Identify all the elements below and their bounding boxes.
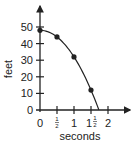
data-point	[37, 28, 42, 33]
y-axis-title: feet	[2, 60, 14, 78]
svg-text:2: 2	[55, 123, 59, 129]
y-tick-label-40: 40	[21, 38, 33, 50]
x-tick-label-one-and-half: 1 1 2	[86, 115, 97, 129]
data-point	[88, 87, 93, 92]
x-tick-label-half: 1 2	[55, 116, 59, 129]
y-tick-label-0: 0	[27, 104, 33, 116]
svg-text:2: 2	[93, 122, 97, 128]
x-tick-label-1: 1	[71, 117, 77, 129]
fitted-curve	[40, 30, 99, 109]
y-tick-label-30: 30	[21, 54, 33, 66]
data-points	[37, 28, 93, 93]
y-tick-label-20: 20	[21, 71, 33, 83]
svg-text:1: 1	[86, 117, 92, 129]
x-tick-label-0: 0	[37, 117, 43, 129]
data-point	[71, 54, 76, 59]
svg-text:1: 1	[55, 116, 59, 122]
y-tick-label-50: 50	[21, 21, 33, 33]
svg-text:1: 1	[93, 115, 97, 121]
x-tick-label-2: 2	[105, 117, 111, 129]
data-point	[54, 34, 59, 39]
y-tick-label-10: 10	[21, 87, 33, 99]
x-axis-title: seconds	[60, 130, 101, 142]
chart: 50 40 30 20 10 0 feet 0 1 2 1 1 1 2 2 se…	[0, 0, 135, 149]
